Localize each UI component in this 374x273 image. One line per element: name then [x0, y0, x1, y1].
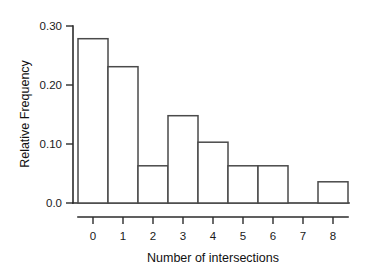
- y-axis-ticks: [66, 26, 73, 203]
- y-tick-label-030: 0.30: [40, 20, 62, 32]
- bar-8: [318, 182, 348, 203]
- histogram-figure: 0.30 0.20 0.10 0.0 Relative Frequency: [0, 0, 374, 273]
- x-axis-ticks: [93, 217, 333, 224]
- x-tick-label-1: 1: [120, 230, 126, 242]
- x-tick-label-0: 0: [90, 230, 96, 242]
- x-tick-label-5: 5: [240, 230, 246, 242]
- y-axis-title: Relative Frequency: [18, 59, 32, 167]
- x-tick-label-2: 2: [150, 230, 156, 242]
- x-axis-title: Number of intersections: [147, 251, 279, 265]
- y-tick-label-020: 0.20: [40, 79, 62, 91]
- bar-3: [168, 116, 198, 203]
- bar-2: [138, 166, 168, 203]
- x-tick-label-6: 6: [270, 230, 276, 242]
- y-tick-label-010: 0.10: [40, 138, 62, 150]
- bar-6: [258, 166, 288, 203]
- bar-5: [228, 166, 258, 203]
- bar-0: [78, 39, 108, 203]
- bar-4: [198, 142, 228, 203]
- x-tick-label-7: 7: [300, 230, 306, 242]
- x-tick-label-8: 8: [330, 230, 336, 242]
- bars-group: [78, 39, 348, 203]
- x-tick-label-3: 3: [180, 230, 186, 242]
- x-tick-label-4: 4: [210, 230, 217, 242]
- bar-1: [108, 67, 138, 203]
- y-tick-label-000: 0.0: [46, 197, 62, 209]
